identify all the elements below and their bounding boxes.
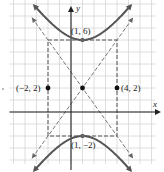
y-axis-label: y bbox=[76, 4, 80, 13]
x-axis-label: x bbox=[153, 100, 157, 109]
covertex-right-label: (4, 2) bbox=[121, 84, 141, 93]
covertex-left-label: (−2, 2) bbox=[16, 84, 41, 93]
vertex-top-label: (1, 6) bbox=[71, 27, 91, 36]
vertex-bottom-label: (1, −2) bbox=[71, 141, 96, 150]
